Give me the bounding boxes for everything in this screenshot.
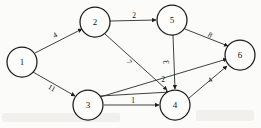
node-1[interactable]: 1 [7, 47, 37, 77]
graph-figure: 4 11 2 7 8 3 1 4 2 1 2 3 [0, 0, 261, 128]
edge-weight-5-4: 3 [162, 60, 171, 64]
node-5[interactable]: 5 [157, 5, 187, 35]
node-4[interactable]: 4 [160, 90, 190, 120]
edge-weight-1-3: 11 [47, 82, 58, 94]
edge-weight-3-4: 1 [131, 96, 135, 105]
node-4-label: 4 [173, 100, 178, 110]
edge-weights-group: 4 11 2 7 8 3 1 4 2 [47, 11, 215, 105]
edge-5-4 [173, 35, 175, 89]
node-3-label: 3 [86, 100, 91, 110]
node-2-label: 2 [93, 17, 98, 27]
node-5-label: 5 [170, 15, 175, 25]
node-2[interactable]: 2 [80, 7, 110, 37]
edge-weight-2-5: 2 [132, 11, 136, 20]
edge-weight-1-2: 4 [51, 30, 59, 40]
edge-1-2 [35, 29, 82, 53]
edge-2-4 [105, 34, 167, 90]
node-6-label: 6 [238, 50, 243, 60]
edge-weight-5-6: 8 [206, 30, 214, 40]
edge-2-5 [110, 20, 156, 21]
edge-weight-2-4: 7 [124, 58, 134, 67]
node-3[interactable]: 3 [73, 90, 103, 120]
edge-weight-4-6: 4 [206, 75, 214, 85]
node-1-label: 1 [20, 57, 25, 67]
node-6[interactable]: 6 [225, 40, 255, 70]
edge-weight-3-6: 2 [161, 75, 165, 84]
graph-canvas: 4 11 2 7 8 3 1 4 2 1 2 3 [0, 0, 261, 128]
